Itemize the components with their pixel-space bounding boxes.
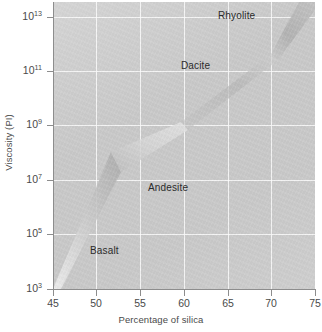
x-tick-75 [315,290,316,296]
y-axis-title: Viscosity (PI) [3,83,14,203]
y-tick-exponent: 5 [38,226,42,235]
y-tick-label-1e11: 1011 [23,65,42,76]
band-basalt [53,152,121,289]
x-tick-label-75: 75 [309,297,321,309]
x-axis-title: Percentage of silica [0,314,322,325]
x-tick-label-60: 60 [178,297,190,309]
y-tick-label-1e7: 107 [26,174,42,185]
y-tick-mantissa: 10 [26,173,38,185]
gridline-horizontal-1e9 [53,125,315,126]
band-rhyolite [271,2,315,60]
y-tick-1e9 [47,125,53,126]
band-label-basalt: Basalt [90,245,119,256]
y-tick-label-1e9: 109 [26,119,42,130]
gridline-vertical-55 [140,2,141,289]
y-tick-label-1e3: 103 [26,283,42,294]
y-tick-label-1e5: 105 [26,228,42,239]
gridline-horizontal-1e5 [53,234,315,235]
x-tick-55 [140,290,141,296]
y-tick-exponent: 11 [35,63,42,72]
band-andesite [111,122,188,172]
x-tick-label-50: 50 [90,297,102,309]
y-tick-exponent: 3 [38,281,42,290]
x-tick-65 [228,290,229,296]
x-tick-label-55: 55 [134,297,146,309]
gridline-horizontal-1e11 [53,71,315,72]
x-tick-label-45: 45 [47,297,59,309]
y-tick-mantissa: 10 [26,227,38,239]
band-label-rhyolite: Rhyolite [218,10,255,21]
viscosity-silica-chart: Rhyolite Dacite Andesite Basalt 1013 101… [0,0,322,332]
y-tick-mantissa: 10 [22,10,34,22]
y-tick-1e5 [47,234,53,235]
y-axis-line [53,2,54,290]
x-tick-label-70: 70 [265,297,277,309]
y-tick-exponent: 7 [38,172,42,181]
gridline-vertical-65 [228,2,229,289]
y-tick-label-1e13: 1013 [22,11,42,22]
x-tick-60 [184,290,185,296]
gridline-horizontal-1e13 [53,17,315,18]
gridline-vertical-60 [184,2,185,289]
x-tick-50 [96,290,97,296]
band-label-andesite: Andesite [148,182,188,193]
band-label-dacite: Dacite [181,60,210,71]
y-tick-1e7 [47,180,53,181]
y-tick-1e13 [47,17,53,18]
y-tick-mantissa: 10 [26,282,38,294]
x-tick-label-65: 65 [222,297,234,309]
y-tick-mantissa: 10 [26,118,38,130]
x-tick-70 [271,290,272,296]
x-tick-45 [53,290,54,296]
y-tick-exponent: 9 [38,117,42,126]
y-tick-exponent: 13 [34,9,42,18]
y-tick-1e11 [47,71,53,72]
gridline-vertical-70 [271,2,272,289]
plot-area: Rhyolite Dacite Andesite Basalt [53,2,315,289]
y-tick-mantissa: 10 [23,64,35,76]
gridline-horizontal-1e7 [53,180,315,181]
